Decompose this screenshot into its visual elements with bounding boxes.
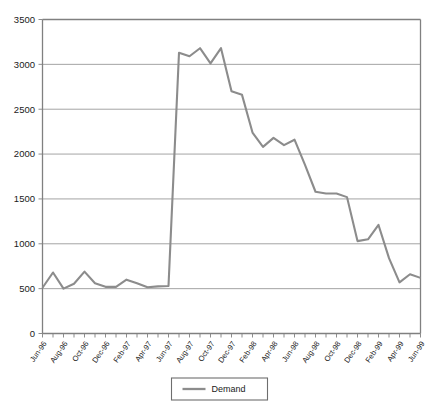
x-axis-labels: Jun-96Aug-96Oct-96Dec-96Feb-97Apr-97Jun-… (28, 339, 427, 364)
x-tick-label-Feb-99: Feb-99 (363, 339, 384, 364)
x-tick-label-Jun-98: Jun-98 (280, 339, 301, 363)
y-axis-labels: 0500100015002000250030003500 (14, 14, 35, 339)
chart-legend: Demand (172, 378, 268, 400)
y-tick-label-1000: 1000 (14, 238, 35, 249)
x-tick-label-Oct-96: Oct-96 (70, 339, 90, 363)
plot-frame (43, 20, 421, 334)
x-tick-label-Oct-97: Oct-97 (196, 339, 216, 363)
x-tick-label-Apr-99: Apr-99 (385, 339, 405, 363)
y-tick-label-2500: 2500 (14, 104, 35, 115)
chart-container: 0500100015002000250030003500 Jun-96Aug-9… (0, 0, 439, 415)
grid-lines (43, 64, 421, 288)
x-tick-label-Dec-97: Dec-97 (216, 339, 237, 364)
x-tick-label-Oct-98: Oct-98 (322, 339, 342, 363)
series-demand (43, 48, 421, 288)
x-tick-label-Feb-97: Feb-97 (111, 339, 132, 364)
x-tick-label-Dec-98: Dec-98 (342, 339, 363, 364)
x-tick-label-Jun-99: Jun-99 (406, 339, 427, 363)
x-tick-label-Aug-98: Aug-98 (300, 339, 321, 364)
x-tick-label-Apr-97: Apr-97 (133, 339, 153, 363)
x-tick-label-Feb-98: Feb-98 (237, 339, 258, 364)
x-tick-label-Aug-97: Aug-97 (174, 339, 195, 364)
y-tick-label-3000: 3000 (14, 59, 35, 70)
y-tick-label-500: 500 (19, 283, 35, 294)
y-tick-label-3500: 3500 (14, 14, 35, 25)
x-tick-label-Aug-96: Aug-96 (48, 339, 69, 364)
legend-label-demand: Demand (212, 384, 246, 394)
x-tick-label-Jun-97: Jun-97 (154, 339, 175, 363)
x-tick-label-Jun-96: Jun-96 (28, 339, 49, 363)
y-tick-label-2000: 2000 (14, 148, 35, 159)
x-tick-label-Dec-96: Dec-96 (90, 339, 111, 364)
x-tick-label-Apr-98: Apr-98 (259, 339, 279, 363)
demand-line-chart: 0500100015002000250030003500 Jun-96Aug-9… (0, 0, 439, 415)
y-tick-label-0: 0 (30, 328, 35, 339)
y-tick-label-1500: 1500 (14, 193, 35, 204)
demand-series-line (43, 48, 421, 288)
